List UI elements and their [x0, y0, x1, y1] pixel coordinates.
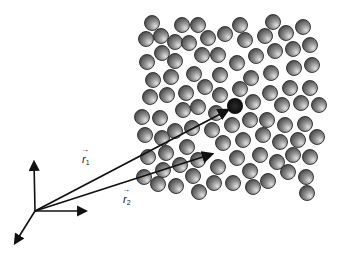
particle: [154, 29, 169, 44]
label-r2: r2: [123, 194, 131, 206]
particle: [216, 136, 231, 151]
particle: [305, 58, 320, 73]
axis-y-arrow: [15, 211, 35, 243]
particle: [198, 80, 213, 95]
particle: [176, 103, 191, 118]
particle: [153, 111, 168, 126]
particle: [244, 71, 259, 86]
particle: [263, 86, 278, 101]
particle: [138, 128, 153, 143]
particle: [205, 123, 220, 138]
particle: [179, 86, 194, 101]
particle: [286, 42, 301, 57]
particle: [151, 177, 166, 192]
highlighted-particle: [227, 98, 243, 114]
particle: [211, 160, 226, 175]
particle: [139, 32, 154, 47]
particle: [291, 133, 306, 148]
particle: [192, 185, 207, 200]
diagram-canvas: [0, 0, 340, 255]
particle: [287, 61, 302, 76]
particle: [164, 70, 179, 85]
r1-subscript: 1: [86, 159, 90, 166]
label-r1: r1: [82, 154, 90, 166]
particle: [303, 81, 318, 96]
particle: [281, 165, 296, 180]
particle: [226, 176, 241, 191]
particle: [261, 174, 276, 189]
particle: [275, 98, 290, 113]
particle: [155, 46, 170, 61]
particle: [213, 88, 228, 103]
particle: [299, 170, 314, 185]
particle: [298, 117, 313, 132]
particle: [186, 169, 201, 184]
particle: [246, 95, 261, 110]
particle: [249, 49, 264, 64]
particle: [191, 100, 206, 115]
particle: [225, 118, 240, 133]
particle: [191, 18, 206, 33]
particle: [273, 135, 288, 150]
particle: [233, 18, 248, 33]
particle: [258, 29, 273, 44]
particle: [312, 98, 327, 113]
particle: [146, 73, 161, 88]
diagram: r1 r2: [0, 0, 340, 255]
particle: [296, 20, 311, 35]
particle: [300, 186, 315, 201]
particle: [256, 128, 271, 143]
particle: [213, 68, 228, 83]
axis-z-arrow: [34, 162, 35, 211]
particle: [279, 26, 294, 41]
particle: [246, 180, 261, 195]
particle: [169, 179, 184, 194]
particle: [187, 67, 202, 82]
r2-subscript: 2: [127, 199, 131, 206]
particle: [159, 146, 174, 161]
particle: [268, 44, 283, 59]
particle: [243, 164, 258, 179]
particle: [168, 35, 183, 50]
particle: [303, 150, 318, 165]
particle: [145, 16, 160, 31]
particle: [135, 110, 150, 125]
particle: [253, 148, 268, 163]
particle: [310, 130, 325, 145]
particle: [236, 133, 251, 148]
r1-symbol: r: [82, 154, 86, 165]
particle: [230, 151, 245, 166]
particle: [294, 96, 309, 111]
particle: [238, 33, 253, 48]
particle: [182, 36, 197, 51]
r2-symbol: r: [123, 194, 127, 205]
particle: [175, 18, 190, 33]
particle: [160, 88, 175, 103]
particle: [266, 15, 281, 30]
particle: [180, 140, 195, 155]
particle: [168, 54, 183, 69]
particle: [243, 113, 258, 128]
particle: [278, 118, 293, 133]
particle: [233, 82, 248, 97]
particle: [140, 55, 155, 70]
particle: [207, 176, 222, 191]
particle: [230, 56, 245, 71]
particle: [283, 81, 298, 96]
particle: [218, 27, 233, 42]
particle: [286, 148, 301, 163]
particle: [168, 124, 183, 139]
particle: [143, 90, 158, 105]
particle: [211, 48, 226, 63]
particle: [264, 66, 279, 81]
particle: [303, 38, 318, 53]
particle: [260, 113, 275, 128]
particle: [201, 31, 216, 46]
particle: [195, 48, 210, 63]
